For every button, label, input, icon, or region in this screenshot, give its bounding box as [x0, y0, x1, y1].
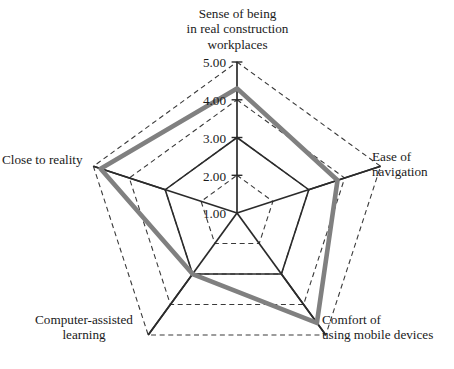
tick-label-5: 5.00 — [176, 55, 226, 71]
radar-chart-figure: Sense of being in real construction work… — [0, 0, 454, 369]
axis-label-computer-assisted-learning: Computer-assisted learning — [4, 312, 164, 343]
outline-edge-right-top — [309, 166, 381, 189]
axis-label-comfort-of-using-mobile-devices: Comfort of using mobile devices — [322, 312, 454, 343]
axis-label-close-to-reality: Close to reality — [2, 152, 96, 167]
axis-label-sense-of-being: Sense of being in real construction work… — [150, 6, 325, 52]
tick-label-1: 1.00 — [176, 206, 226, 222]
tick-label-4: 4.00 — [176, 93, 226, 109]
tick-label-3: 3.00 — [176, 131, 226, 147]
tick-label-2: 2.00 — [176, 169, 226, 185]
axis-label-ease-of-navigation: Ease of navigation — [372, 149, 454, 180]
